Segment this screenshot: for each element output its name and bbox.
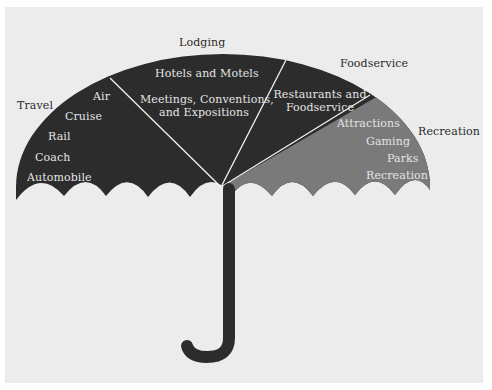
travel-item-cruise: Cruise <box>65 110 102 123</box>
category-label-travel: Travel <box>17 99 53 112</box>
lodging-item-meetings-line2: and Expositions <box>140 106 268 119</box>
recreation-item-gaming: Gaming <box>366 135 410 148</box>
recreation-item-attractions: Attractions <box>337 117 400 130</box>
foodservice-item-line2: Foodservice <box>272 101 368 114</box>
travel-item-coach: Coach <box>35 151 70 164</box>
category-label-foodservice: Foodservice <box>340 57 408 70</box>
umbrella-graphic <box>0 0 492 390</box>
recreation-item-parks: Parks <box>387 152 419 165</box>
travel-item-automobile: Automobile <box>27 171 92 184</box>
foodservice-item-line1: Restaurants and <box>272 88 368 101</box>
lodging-item-meetings: Meetings, Conventions, and Expositions <box>140 93 268 119</box>
foodservice-item-restaurants: Restaurants and Foodservice <box>272 88 368 114</box>
travel-item-rail: Rail <box>48 130 71 143</box>
travel-item-air: Air <box>93 90 110 103</box>
recreation-item-recreation: Recreation <box>366 169 428 182</box>
umbrella-handle <box>187 189 229 357</box>
lodging-item-meetings-line1: Meetings, Conventions, <box>140 93 268 106</box>
category-label-lodging: Lodging <box>179 36 225 49</box>
category-label-recreation: Recreation <box>418 125 480 138</box>
lodging-item-hotels-motels: Hotels and Motels <box>155 67 259 80</box>
